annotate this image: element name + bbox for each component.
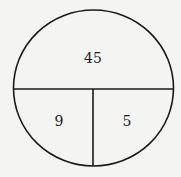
region-bottom-left-label: 9 [55, 113, 64, 129]
circle-diagram: 45 9 5 [0, 0, 181, 177]
region-bottom-right-label: 5 [123, 113, 132, 129]
region-top-label: 45 [84, 50, 102, 66]
